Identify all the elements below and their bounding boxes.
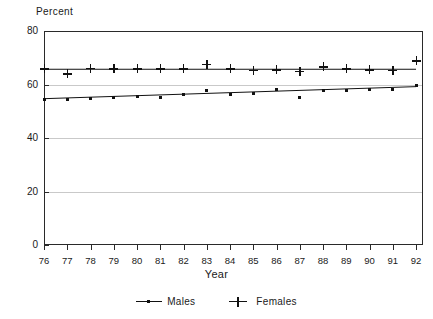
data-point-females-90 [365,65,374,74]
data-point-females-79 [109,64,118,73]
chart-container: Percent 020406080 7677787980818283848586… [0,0,433,319]
data-point-males-83 [205,89,208,92]
data-point-males-78 [89,97,92,100]
data-point-males-77 [66,98,69,101]
data-point-females-86 [272,65,281,74]
data-point-females-92 [412,56,421,65]
data-point-females-81 [156,64,165,73]
data-point-females-78 [86,64,95,73]
data-point-males-92 [415,84,418,87]
data-point-males-85 [252,92,255,95]
data-point-females-83 [202,60,211,69]
chart-legend: Males Females [0,296,433,307]
data-point-males-80 [136,95,139,98]
data-point-males-86 [275,88,278,91]
data-point-males-90 [368,88,371,91]
x-axis-title: Year [0,268,433,280]
plus-marker-icon [225,297,251,307]
line-dot-marker-icon [136,297,162,307]
data-point-males-91 [391,88,394,91]
legend-label-females: Females [256,296,296,307]
data-point-males-82 [182,93,185,96]
data-point-males-84 [229,93,232,96]
data-point-males-87 [298,96,301,99]
data-point-males-88 [322,89,325,92]
data-point-females-88 [319,62,328,71]
data-point-females-91 [388,66,397,75]
legend-label-males: Males [167,296,195,307]
data-point-females-84 [226,64,235,73]
data-point-males-89 [345,89,348,92]
data-point-females-82 [179,64,188,73]
data-point-males-79 [112,96,115,99]
legend-item-males: Males [136,296,195,307]
data-point-males-81 [159,96,162,99]
data-point-females-85 [249,66,258,75]
data-point-females-87 [295,67,304,76]
legend-item-females: Females [225,296,296,307]
data-point-males-76 [43,98,46,101]
data-point-females-76 [40,64,49,73]
data-point-females-77 [63,69,72,78]
data-point-females-80 [133,64,142,73]
data-point-females-89 [342,64,351,73]
